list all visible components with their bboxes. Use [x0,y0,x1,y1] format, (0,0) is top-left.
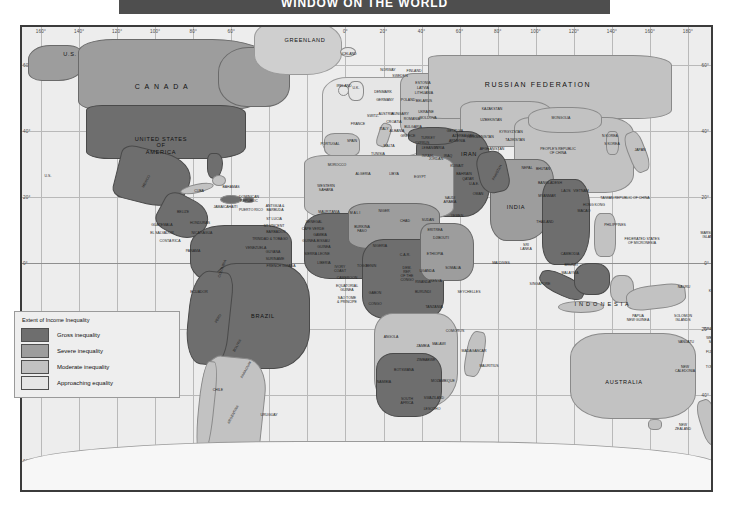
legend-item-2[interactable]: Moderate inequality [21,359,173,374]
longitude-label-17: 180° [683,29,693,34]
legend-item-0[interactable]: Gross inequality [21,327,173,342]
land-hispaniola [220,195,242,204]
legend-swatch-3 [21,376,49,390]
land-iberia [324,133,360,157]
longitude-label-16: 160° [645,29,655,34]
latitude-label-left-2: 20° [23,195,31,200]
latitude-label-right-0: 60° [701,63,709,68]
legend-label-2: Moderate inequality [57,364,109,370]
legend-item-3[interactable]: Approaching equality [21,375,173,390]
land-south-africa [376,353,442,417]
legend-rows: Gross inequalitySevere inequalityModerat… [21,327,173,390]
page-title: WINDOW ON THE WORLD [281,0,448,10]
meridian-160° [41,27,42,490]
meridian-180° [688,27,689,490]
land-turkey [408,127,458,145]
longitude-label-9: 20° [380,29,388,34]
land-indochina [542,179,590,265]
legend-swatch-1 [21,344,49,358]
land-korea [606,131,619,155]
land-ireland [338,85,349,96]
land-java [558,301,604,313]
land-uk [348,81,364,101]
land-australia [570,333,696,419]
land-tasmania [648,419,662,430]
land-mongolia [528,107,602,133]
longitude-label-0: 160° [36,29,46,34]
map-legend: Extent of Income Inequality Gross inequa… [14,311,180,398]
longitude-label-11: 60° [456,29,464,34]
land-puerto-rico [243,197,254,203]
latitude-label-left-1: 40° [23,129,31,134]
legend-label-0: Gross inequality [57,332,100,338]
longitude-label-2: 120° [112,29,122,34]
land-bahamas [212,175,226,186]
world-map[interactable]: 160°140°120°100°80°60°40°20°0°20°40°60°8… [20,25,713,492]
latitude-label-right-2: 20° [701,195,709,200]
longitude-label-1: 140° [74,29,84,34]
legend-swatch-0 [21,328,49,342]
land-usa [86,105,246,159]
longitude-label-14: 120° [569,29,579,34]
land-philippines [594,213,616,257]
latitude-label-left-3: 0° [23,261,28,266]
latitude-label-right-5: 40° [701,393,709,398]
legend-title: Extent of Income Inequality [22,317,173,323]
longitude-label-5: 60° [228,29,236,34]
legend-swatch-2 [21,360,49,374]
land-antarctica [20,441,713,492]
longitude-label-10: 40° [418,29,426,34]
legend-label-3: Approaching equality [57,380,113,386]
longitude-label-8: 0° [343,29,348,34]
longitude-label-4: 80° [189,29,197,34]
land-iceland [340,47,356,57]
legend-item-1[interactable]: Severe inequality [21,343,173,358]
latitude-label-right-4: 20° [701,327,709,332]
land-alaska [28,45,84,81]
longitude-label-13: 100° [531,29,541,34]
land-horn-of-africa [420,223,474,281]
longitude-label-12: 80° [494,29,502,34]
longitude-label-15: 140° [607,29,617,34]
longitude-label-3: 100° [150,29,160,34]
latitude-label-right-1: 40° [701,129,709,134]
legend-label-1: Severe inequality [57,348,103,354]
land-borneo [574,263,610,295]
land-greenland [254,25,342,75]
page-title-bar: WINDOW ON THE WORLD [119,0,610,14]
latitude-label-right-3: 0° [704,261,709,266]
